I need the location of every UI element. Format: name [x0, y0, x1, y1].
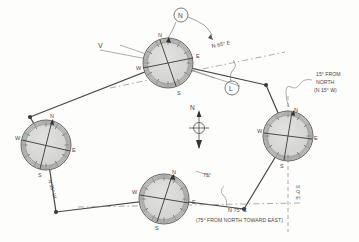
rose-bottom-label-w: W [132, 189, 138, 195]
rose-left-label-w: W [15, 135, 21, 141]
vertex-north [264, 83, 268, 87]
rose-top-label-e: E [196, 53, 200, 59]
label-v: V [98, 42, 103, 49]
note-right-line3: (N 15° W) [314, 87, 337, 93]
callout-n-label: N [178, 12, 183, 19]
rose-left-label-n: N [50, 113, 54, 119]
rose-right-label-w: W [257, 128, 263, 134]
callout-l-label: L [229, 85, 233, 92]
traverse-diagram: N E S W N E S W N E S W N E [0, 0, 359, 242]
rose-top-label-w: W [136, 65, 142, 71]
note-right-line2: NORTH [316, 79, 335, 85]
bearing-right-vertical-label: S 0° E [295, 185, 301, 200]
vertex-southwest [54, 210, 58, 214]
rose-left-label-s: S [38, 172, 42, 178]
rose-right-label-n: N [294, 107, 298, 113]
rose-bottom-label-n: N [172, 169, 176, 175]
note-right-line1: 15° FROM [316, 71, 341, 77]
rose-right-label-s: S [280, 163, 284, 169]
rose-bottom-label-e: E [192, 199, 196, 205]
rose-left-label-e: E [72, 147, 76, 153]
bearing-bottom-label: N 75° E [228, 207, 247, 213]
bearing-bottom-note: (75° FROM NORTH TOWARD EAST) [196, 217, 283, 223]
vertex-west [28, 115, 32, 119]
rose-top-label-s: S [177, 90, 181, 96]
rose-bottom-label-s: S [155, 225, 159, 231]
rose-top-label-n: N [158, 32, 162, 38]
north-arrow-label: N [190, 104, 195, 111]
rose-right-label-e: E [314, 135, 318, 141]
